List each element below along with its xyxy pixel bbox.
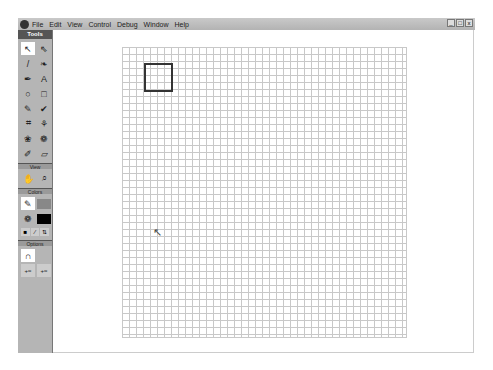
close-button[interactable]: x xyxy=(465,19,473,27)
window-controls: _ □ x xyxy=(447,19,473,27)
lasso-tool-icon[interactable]: ❧ xyxy=(37,57,51,70)
swap-colors-button[interactable]: ⇅ xyxy=(40,228,49,236)
eraser-tool-icon[interactable]: ▱ xyxy=(37,147,51,160)
pencil-tool-icon[interactable]: ✎ xyxy=(21,102,35,115)
tools-panel: Tools ↖ ⇖ / ❧ ✒ A ○ □ ✎ ✔ ⌗ ⚘ ❀ ❁ ✐ ▱ Vi… xyxy=(18,30,53,353)
tools-title: Tools xyxy=(18,30,52,39)
drawing-tools: ↖ ⇖ / ❧ ✒ A ○ □ ✎ ✔ ⌗ ⚘ ❀ ❁ ✐ ▱ xyxy=(18,39,52,161)
straighten-button[interactable]: +≈ xyxy=(37,264,51,277)
color-buttons: ■ ∕ ⇅ xyxy=(18,226,52,238)
paint-bucket-tool-icon[interactable]: ❁ xyxy=(37,132,51,145)
menu-window[interactable]: Window xyxy=(144,21,169,28)
view-tools: ✋ ⌕ xyxy=(18,169,52,186)
menu-edit[interactable]: Edit xyxy=(49,21,61,28)
fill-transform-tool-icon[interactable]: ⚘ xyxy=(37,117,51,130)
fill-color-icon[interactable]: ❁ xyxy=(21,212,35,225)
rectangle-tool-icon[interactable]: □ xyxy=(37,87,51,100)
text-tool-icon[interactable]: A xyxy=(37,72,51,85)
eyedropper-tool-icon[interactable]: ✐ xyxy=(21,147,35,160)
mouse-cursor-icon: ↖ xyxy=(153,226,162,239)
brush-tool-icon[interactable]: ✔ xyxy=(37,102,51,115)
hand-tool-icon[interactable]: ✋ xyxy=(21,172,35,185)
color-tools: ✎ ❁ xyxy=(18,194,52,226)
stroke-color-icon[interactable]: ✎ xyxy=(21,197,35,210)
fill-color-swatch[interactable] xyxy=(37,214,51,224)
subselect-tool-icon[interactable]: ⇖ xyxy=(37,42,51,55)
rectangle-shape[interactable] xyxy=(144,63,173,92)
minimize-button[interactable]: _ xyxy=(447,19,455,27)
ink-bottle-tool-icon[interactable]: ❀ xyxy=(21,132,35,145)
menu-help[interactable]: Help xyxy=(175,21,189,28)
line-tool-icon[interactable]: / xyxy=(21,57,35,70)
arrow-tool-icon[interactable]: ↖ xyxy=(21,42,35,55)
menu-bar: File Edit View Control Debug Window Help… xyxy=(18,18,475,30)
no-color-button[interactable]: ∕ xyxy=(31,228,40,236)
default-colors-button[interactable]: ■ xyxy=(21,228,30,236)
menu-view[interactable]: View xyxy=(67,21,82,28)
pen-tool-icon[interactable]: ✒ xyxy=(21,72,35,85)
smooth-button[interactable]: +≈ xyxy=(21,264,35,277)
oval-tool-icon[interactable]: ○ xyxy=(21,87,35,100)
app-logo-icon xyxy=(20,20,29,29)
free-transform-tool-icon[interactable]: ⌗ xyxy=(21,117,35,130)
snap-magnet-icon[interactable]: ∩ xyxy=(21,249,35,262)
menu-control[interactable]: Control xyxy=(88,21,111,28)
menu-file[interactable]: File xyxy=(32,21,43,28)
menu-debug[interactable]: Debug xyxy=(117,21,138,28)
option-tools: ∩ +≈ +≈ xyxy=(18,246,52,278)
stroke-color-swatch[interactable] xyxy=(37,199,51,209)
restore-button[interactable]: □ xyxy=(456,19,464,27)
zoom-tool-icon[interactable]: ⌕ xyxy=(37,172,51,185)
